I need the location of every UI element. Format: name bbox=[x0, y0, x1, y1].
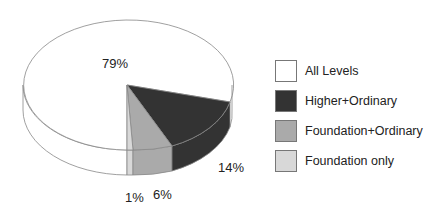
swatch-foundation-ordinary bbox=[275, 120, 297, 142]
label-foundation-ordinary: 6% bbox=[153, 187, 172, 202]
label-higher-ordinary: 14% bbox=[218, 160, 244, 175]
legend-item-all-levels: All Levels bbox=[275, 56, 423, 86]
legend-label: All Levels bbox=[305, 64, 359, 78]
label-all-levels: 79% bbox=[102, 56, 128, 71]
pie-chart bbox=[0, 0, 260, 207]
legend-label: Higher+Ordinary bbox=[305, 94, 397, 108]
legend: All Levels Higher+Ordinary Foundation+Or… bbox=[275, 56, 423, 176]
swatch-higher-ordinary bbox=[275, 90, 297, 112]
side-foundation-only bbox=[127, 150, 133, 175]
label-foundation-only: 1% bbox=[125, 190, 144, 205]
legend-label: Foundation+Ordinary bbox=[305, 124, 423, 138]
swatch-all-levels bbox=[275, 60, 297, 82]
legend-item-higher-ordinary: Higher+Ordinary bbox=[275, 86, 423, 116]
legend-item-foundation-only: Foundation only bbox=[275, 146, 423, 176]
legend-item-foundation-ordinary: Foundation+Ordinary bbox=[275, 116, 423, 146]
swatch-foundation-only bbox=[275, 150, 297, 172]
legend-label: Foundation only bbox=[305, 154, 394, 168]
